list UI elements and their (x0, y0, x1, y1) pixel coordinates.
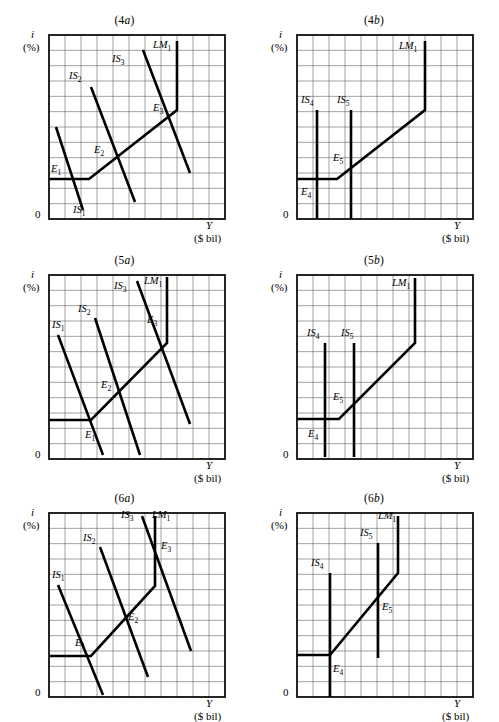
y-axis-unit: (%) (271, 41, 288, 53)
label-lm1: LM1 (143, 275, 163, 289)
y-axis-symbol: i (279, 506, 282, 518)
chart-5b: IS4 IS5 LM1 E4 E5 (297, 275, 473, 459)
label-is3: IS3 (113, 280, 127, 294)
panel-4b: (4b) i (%) 0 Y ($ bil) (249, 0, 499, 240)
gridlines-5b (297, 275, 473, 459)
plot-area-4a: IS1 IS2 IS3 LM1 E1 E2 E3 (49, 35, 225, 219)
label-e5: E5 (381, 601, 392, 615)
label-e2: E2 (93, 144, 104, 158)
plot-area-5a: IS1 IS2 IS3 LM1 E1 E2 E3 (49, 275, 225, 459)
origin-label: 0 (35, 448, 41, 460)
panel-6a: (6a) i (%) 0 Y ($ bil) (0, 478, 249, 722)
curves-6a (49, 516, 191, 695)
label-e4: E4 (332, 663, 343, 677)
panel-5a-title: (5a) (0, 254, 249, 266)
gridlines-4b (297, 35, 473, 219)
panel-6b: (6b) i (%) 0 Y ($ bil) (249, 478, 499, 722)
label-e1: E1 (50, 163, 61, 177)
figure-panel-grid: (4a) i (%) 0 Y ($ bil) (0, 0, 499, 722)
x-axis-symbol: Y (454, 697, 460, 709)
plot-area-4b: IS4 IS5 LM1 E4 E5 (297, 35, 473, 219)
chart-6a: IS1 IS2 IS3 LM1 E1 E2 E3 (49, 513, 225, 697)
curve-is3 (142, 516, 191, 651)
label-e3: E3 (160, 540, 171, 554)
panel-5a: (5a) i (%) 0 Y ($ bil) (0, 240, 249, 478)
label-e4: E4 (307, 428, 318, 442)
y-axis-symbol: i (31, 28, 34, 40)
curve-labels-6b: IS4 IS5 LM1 E4 E5 (310, 510, 397, 677)
y-axis-symbol: i (279, 28, 282, 40)
label-e4: E4 (300, 186, 311, 200)
y-axis-unit: (%) (23, 281, 40, 293)
y-axis-unit: (%) (271, 281, 288, 293)
curve-lm1 (49, 277, 167, 420)
y-axis-symbol: i (31, 506, 34, 518)
label-e3: E3 (152, 102, 163, 116)
curve-is2 (100, 547, 148, 677)
plot-area-5b: IS4 IS5 LM1 E4 E5 (297, 275, 473, 459)
panel-5b-title: (5b) (249, 254, 499, 266)
origin-label: 0 (35, 208, 41, 220)
curves-4a (49, 41, 190, 210)
origin-label: 0 (283, 686, 289, 698)
label-e3: E3 (146, 314, 157, 328)
panel-4a: (4a) i (%) 0 Y ($ bil) (0, 0, 249, 240)
label-e5: E5 (332, 152, 343, 166)
x-axis-symbol: Y (454, 219, 460, 231)
label-is1: IS1 (51, 569, 65, 583)
y-axis-unit: (%) (23, 519, 40, 531)
label-is5: IS5 (336, 94, 350, 108)
y-axis-symbol: i (31, 268, 34, 280)
label-is3: IS3 (120, 509, 134, 523)
x-axis-symbol: Y (454, 459, 460, 471)
panel-4a-title: (4a) (0, 14, 249, 26)
x-axis-symbol: Y (206, 697, 212, 709)
x-axis-symbol: Y (206, 459, 212, 471)
panel-4b-title: (4b) (249, 14, 499, 26)
panel-6a-title: (6a) (0, 492, 249, 504)
gridlines-5a (49, 275, 225, 459)
curves-5b (297, 278, 415, 457)
panel-6b-title: (6b) (249, 492, 499, 504)
label-lm1: LM1 (398, 40, 418, 54)
plot-area-6b: IS4 IS5 LM1 E4 E5 (297, 513, 473, 697)
label-is2: IS2 (68, 70, 82, 84)
label-lm1: LM1 (391, 277, 411, 291)
chart-5a: IS1 IS2 IS3 LM1 E1 E2 E3 (49, 275, 225, 459)
label-e1: E1 (74, 637, 85, 651)
panel-5b: (5b) i (%) 0 Y ($ bil) (249, 240, 499, 478)
x-axis-unit: ($ bil) (442, 710, 469, 722)
label-is2: IS2 (77, 303, 91, 317)
origin-label: 0 (35, 686, 41, 698)
label-is4: IS4 (300, 94, 314, 108)
x-axis-unit: ($ bil) (194, 710, 221, 722)
label-e2: E2 (100, 379, 111, 393)
plot-area-6a: IS1 IS2 IS3 LM1 E1 E2 E3 (49, 513, 225, 697)
label-is1: IS1 (72, 204, 86, 218)
curve-labels-5b: IS4 IS5 LM1 E4 E5 (306, 277, 411, 442)
label-e5: E5 (332, 391, 343, 405)
y-axis-symbol: i (279, 268, 282, 280)
y-axis-unit: (%) (23, 41, 40, 53)
x-axis-symbol: Y (206, 219, 212, 231)
y-axis-unit: (%) (271, 519, 288, 531)
label-is5: IS5 (340, 327, 354, 341)
gridlines-4a (49, 35, 225, 219)
chart-4a: IS1 IS2 IS3 LM1 E1 E2 E3 (49, 35, 225, 219)
origin-label: 0 (283, 208, 289, 220)
label-lm1: LM1 (377, 510, 397, 524)
chart-4b: IS4 IS5 LM1 E4 E5 (297, 35, 473, 219)
origin-label: 0 (283, 448, 289, 460)
curve-lm1 (297, 516, 398, 655)
chart-6b: IS4 IS5 LM1 E4 E5 (297, 513, 473, 697)
